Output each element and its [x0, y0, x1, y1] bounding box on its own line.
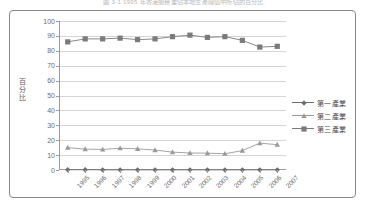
legend-swatch — [292, 98, 314, 107]
y-axis-tick-label: 10 — [31, 152, 55, 159]
data-point-marker — [135, 37, 140, 42]
x-axis-tick-mark — [207, 170, 208, 173]
x-axis-tick-mark — [155, 170, 156, 173]
data-point-marker — [187, 33, 192, 38]
x-axis-tick-mark — [68, 170, 69, 173]
y-axis-tick-mark — [56, 21, 59, 22]
y-axis-title-char: 比 — [17, 94, 27, 102]
data-point-marker — [100, 36, 105, 41]
data-point-marker — [301, 113, 306, 118]
y-axis-tick-label: 100 — [31, 18, 55, 25]
series-square — [65, 33, 280, 50]
y-axis-tick-label: 40 — [31, 107, 55, 114]
legend-item[interactable]: 第三產業 — [292, 122, 350, 135]
y-axis-tick-mark — [56, 96, 59, 97]
data-point-marker — [205, 35, 210, 40]
legend-marker-square-icon — [300, 125, 308, 133]
x-axis-tick-mark — [260, 170, 261, 173]
data-point-marker — [152, 36, 157, 41]
data-point-marker — [222, 34, 227, 39]
legend-swatch — [292, 111, 314, 120]
legend-swatch — [292, 124, 314, 133]
y-axis-tick-mark — [56, 170, 59, 171]
data-point-marker — [275, 44, 280, 49]
x-axis-tick-mark — [190, 170, 191, 173]
y-axis-tick-mark — [56, 140, 59, 141]
data-point-marker — [118, 36, 123, 41]
legend-label: 第三產業 — [317, 124, 346, 134]
y-axis-tick-mark — [56, 110, 59, 111]
data-point-marker — [65, 145, 70, 150]
data-point-marker — [240, 38, 245, 43]
x-axis-tick-mark — [103, 170, 104, 173]
legend-marker-diamond-icon — [300, 99, 308, 107]
y-axis-tick-mark — [56, 125, 59, 126]
legend-item[interactable]: 第一產業 — [292, 96, 350, 109]
figure-container: 圖 3-1 1995 年香港服務業佔本地生產總值中所佔的百分比 01020304… — [0, 0, 367, 216]
data-point-marker — [301, 126, 306, 131]
y-axis-tick-mark — [56, 81, 59, 82]
y-axis-tick-label: 0 — [31, 167, 55, 174]
y-axis-tick-label: 20 — [31, 137, 55, 144]
data-point-marker — [257, 44, 262, 49]
x-axis-tick-mark — [225, 170, 226, 173]
data-point-marker — [301, 100, 306, 105]
x-axis-tick-mark — [120, 170, 121, 173]
y-axis-tick-mark — [56, 66, 59, 67]
y-axis-tick-labels: 0102030405060708090100 — [29, 21, 55, 170]
legend-label: 第二產業 — [317, 111, 346, 121]
legend-item[interactable]: 第二產業 — [292, 109, 350, 122]
x-axis-tick-mark — [173, 170, 174, 173]
data-point-marker — [65, 39, 70, 44]
y-axis-title-char: 百 — [17, 78, 27, 86]
series-layer — [59, 21, 286, 170]
y-axis-tick-mark — [56, 36, 59, 37]
y-axis-tick-label: 50 — [31, 92, 55, 99]
legend-marker-triangle-icon — [300, 112, 308, 120]
figure-caption: 圖 3-1 1995 年香港服務業佔本地生產總值中所佔的百分比 — [0, 0, 367, 7]
y-axis-title: 百分比 — [17, 78, 27, 103]
y-axis-tick-label: 30 — [31, 122, 55, 129]
x-axis-tick-mark — [277, 170, 278, 173]
y-axis-tick-mark — [56, 51, 59, 52]
y-axis-tick-label: 90 — [31, 32, 55, 39]
data-point-marker — [83, 36, 88, 41]
data-point-marker — [170, 34, 175, 39]
y-axis-tick-mark — [56, 155, 59, 156]
y-axis-tick-label: 80 — [31, 47, 55, 54]
legend-label: 第一產業 — [317, 98, 346, 108]
x-axis-tick-mark — [242, 170, 243, 173]
x-axis-tick-mark — [138, 170, 139, 173]
series-triangle — [65, 140, 280, 155]
y-axis-tick-label: 70 — [31, 62, 55, 69]
y-axis-tick-label: 60 — [31, 77, 55, 84]
data-point-marker — [257, 140, 262, 145]
x-axis-tick-mark — [85, 170, 86, 173]
chart-legend: 第一產業第二產業第三產業 — [292, 96, 350, 135]
